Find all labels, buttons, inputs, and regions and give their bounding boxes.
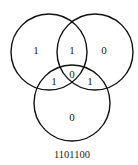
region-right-only: 0 <box>101 44 107 56</box>
venn-diagram: 1 1 0 1 0 1 0 1101100 <box>0 0 138 165</box>
region-bottom-only: 0 <box>69 111 75 123</box>
circle-top-left <box>11 14 87 90</box>
region-right-bottom: 1 <box>87 75 93 87</box>
region-left-right: 1 <box>69 44 75 56</box>
region-left-only: 1 <box>33 44 39 56</box>
region-left-bottom: 1 <box>51 75 57 87</box>
region-all-three: 0 <box>69 68 75 80</box>
code-label: 1101100 <box>54 149 90 160</box>
